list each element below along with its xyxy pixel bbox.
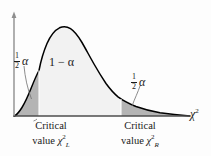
critical-value-left-sub: L [66,140,70,148]
critical-value-right-caption: Critical value χ2R [103,120,177,149]
x-axis-label: χ2 [190,108,199,120]
y-axis-arrowhead [12,12,17,19]
critical-value-right-line1: Critical [103,120,177,133]
critical-value-right-line2: value χ2R [103,133,177,149]
critical-value-left-line1: Critical [17,120,85,133]
right-tail-alpha-label: 1 2 α [131,73,145,91]
critical-value-left-line2: value χ2L [17,133,85,149]
chi-square-distribution-figure: 1 2 α 1 − α 1 2 α χ2 Critical value χ2L … [0,0,211,156]
critical-value-left-prefix: value [32,134,57,145]
critical-value-left-caption: Critical value χ2L [17,120,85,149]
right-alpha-symbol: α [137,76,145,88]
critical-value-right-prefix: value [121,134,146,145]
critical-value-right-sub: R [155,140,159,148]
right-tail-shading [121,99,190,116]
left-tail-alpha-label: 1 2 α [14,52,28,70]
x-axis-chi-exponent: 2 [195,107,199,115]
center-region-label: 1 − α [49,56,74,68]
left-alpha-symbol: α [20,55,28,67]
